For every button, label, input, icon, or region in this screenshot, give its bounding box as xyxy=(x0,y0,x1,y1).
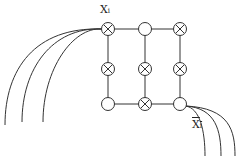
connection-curve xyxy=(5,29,102,125)
connection-curve xyxy=(186,106,236,156)
grid-nodes xyxy=(102,23,187,111)
empty-node xyxy=(174,98,187,111)
crossed-node xyxy=(102,23,115,36)
node-circle xyxy=(102,98,115,111)
label-x-i-bar-sub: i xyxy=(200,122,202,130)
crossed-node xyxy=(174,23,187,36)
node-circle xyxy=(139,23,152,36)
connection-curve xyxy=(22,29,102,122)
label-x-i: Xi xyxy=(100,3,110,16)
crossed-node xyxy=(102,63,115,76)
connection-curves xyxy=(5,29,235,156)
connection-curve xyxy=(43,29,102,122)
connection-curve xyxy=(186,106,206,156)
label-x-i-sub: i xyxy=(108,7,110,15)
crossed-node xyxy=(174,63,187,76)
crossed-node xyxy=(139,98,152,111)
empty-node xyxy=(102,98,115,111)
label-x-i-main: X xyxy=(100,3,108,16)
node-circle xyxy=(174,98,187,111)
empty-node xyxy=(139,23,152,36)
label-x-i-bar-main: X xyxy=(192,118,200,131)
grid-diagram xyxy=(0,0,240,156)
crossed-node xyxy=(139,63,152,76)
label-x-i-bar: Xi xyxy=(192,118,202,131)
